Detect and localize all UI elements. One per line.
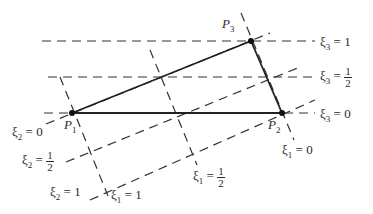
triangle-diagram — [0, 0, 373, 214]
line-xi2-half — [66, 67, 300, 162]
label-p2: P2 — [268, 118, 280, 135]
label-xi1-0: ξ1 = 0 — [282, 143, 313, 160]
line-xi1-half — [150, 50, 197, 165]
label-xi2-1: ξ2 = 1 — [50, 185, 81, 202]
label-xi2-half: ξ2 = 12 — [22, 150, 54, 173]
label-p1: P1 — [64, 118, 76, 135]
label-xi3-1: ξ3 = 1 — [320, 35, 351, 52]
vertex-p3 — [248, 38, 254, 44]
line-xi1-1 — [60, 77, 108, 196]
label-p3: P3 — [222, 17, 234, 34]
vertex-p1 — [69, 110, 75, 116]
label-xi3-half: ξ3 = 12 — [320, 66, 352, 89]
label-xi2-0: ξ2 = 0 — [12, 125, 43, 142]
label-xi1-1: ξ1 = 1 — [111, 188, 142, 205]
vertex-p2 — [279, 110, 285, 116]
label-xi1-half: ξ1 = 12 — [193, 166, 225, 189]
label-xi3-0: ξ3 = 0 — [320, 107, 351, 124]
